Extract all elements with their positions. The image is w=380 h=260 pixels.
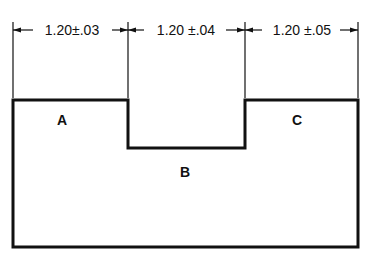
- region-label-a: A: [57, 112, 67, 128]
- arrowhead-icon: [237, 28, 245, 33]
- region-label-c: C: [292, 112, 302, 128]
- arrowhead-icon: [128, 28, 136, 33]
- dimension-a-text: 1.20±.03: [45, 22, 100, 38]
- arrowhead-icon: [120, 28, 128, 33]
- dimensioned-part-drawing: 1.20±.03 1.20 ±.04 1.20 ±.05 A B C: [0, 0, 380, 260]
- dimension-c-text: 1.20 ±.05: [273, 22, 331, 38]
- arrowhead-icon: [245, 28, 253, 33]
- arrowhead-icon: [350, 28, 358, 33]
- arrowhead-icon: [13, 28, 21, 33]
- region-label-b: B: [180, 164, 190, 180]
- dimension-b-text: 1.20 ±.04: [157, 22, 215, 38]
